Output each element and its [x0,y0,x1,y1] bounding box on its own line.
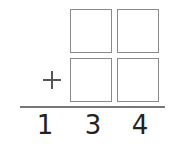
sum-digit-hundreds: 1 [33,111,57,139]
answer-box-bottom-tens[interactable] [70,58,112,102]
sum-digit-tens: 3 [81,111,105,139]
sum-digit-ones: 4 [128,111,152,139]
answer-box-bottom-ones[interactable] [117,58,159,102]
sum-line [20,106,165,108]
answer-box-top-tens[interactable] [70,9,112,53]
answer-box-top-ones[interactable] [117,9,159,53]
plus-sign-icon [43,71,61,89]
